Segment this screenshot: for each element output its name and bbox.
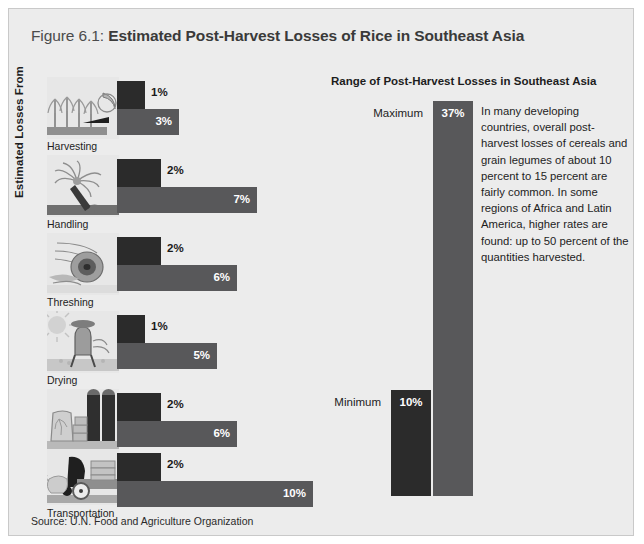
bar-minimum-value: 1% bbox=[151, 86, 168, 98]
bar-maximum: 6% bbox=[117, 421, 237, 447]
bar-minimum bbox=[117, 393, 161, 421]
drying-icon bbox=[47, 311, 119, 373]
bar-minimum bbox=[117, 237, 161, 265]
bar-maximum-value: 3% bbox=[155, 115, 172, 127]
threshing-icon bbox=[47, 233, 119, 295]
figure-panel: Figure 6.1: Estimated Post-Harvest Losse… bbox=[8, 8, 634, 536]
source-note: Source: U.N. Food and Agriculture Organi… bbox=[31, 515, 253, 527]
bar-maximum-value: 10% bbox=[283, 487, 306, 499]
range-bar-maximum bbox=[433, 101, 473, 496]
harvesting-icon bbox=[47, 77, 119, 139]
handling-icon bbox=[47, 155, 119, 217]
range-bar-maximum-value: 37% bbox=[433, 107, 473, 119]
range-bar-minimum-label: Minimum bbox=[281, 396, 381, 408]
bar-maximum-value: 7% bbox=[233, 193, 250, 205]
storage-icon bbox=[47, 389, 119, 451]
bar-minimum bbox=[117, 159, 161, 187]
transportation-icon bbox=[47, 449, 119, 505]
bar-maximum: 10% bbox=[117, 481, 313, 507]
category-label: Drying bbox=[47, 374, 77, 386]
bar-maximum: 5% bbox=[117, 343, 217, 369]
bar-maximum: 6% bbox=[117, 265, 237, 291]
bar-minimum-value: 1% bbox=[151, 320, 168, 332]
range-panel-description: In many developing countries, overall po… bbox=[481, 103, 631, 265]
losses-bar-chart: 1% 3% Harvesting bbox=[9, 9, 349, 536]
range-bar-minimum-value: 10% bbox=[391, 396, 431, 408]
bar-minimum bbox=[117, 453, 161, 481]
bar-minimum-value: 2% bbox=[167, 458, 184, 470]
bar-minimum-value: 2% bbox=[167, 398, 184, 410]
range-bar-maximum-label: Maximum bbox=[323, 107, 423, 119]
bar-minimum-value: 2% bbox=[167, 164, 184, 176]
bar-minimum-value: 2% bbox=[167, 242, 184, 254]
bar-maximum: 7% bbox=[117, 187, 257, 213]
bar-maximum: 3% bbox=[117, 109, 179, 135]
bar-minimum bbox=[117, 315, 145, 343]
category-label: Handling bbox=[47, 218, 88, 230]
category-label: Harvesting bbox=[47, 140, 97, 152]
bar-maximum-value: 6% bbox=[213, 427, 230, 439]
category-label: Threshing bbox=[47, 296, 94, 308]
bar-maximum-value: 5% bbox=[193, 349, 210, 361]
range-panel-title: Range of Post-Harvest Losses in Southeas… bbox=[331, 75, 596, 87]
bar-maximum-value: 6% bbox=[213, 271, 230, 283]
bar-minimum bbox=[117, 81, 145, 109]
